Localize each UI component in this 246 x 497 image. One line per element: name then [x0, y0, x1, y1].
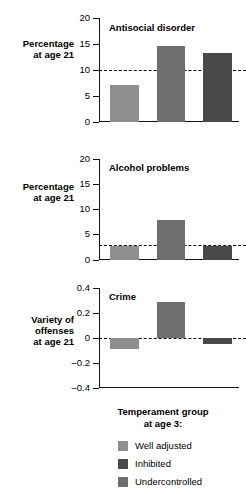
tick-label: 10 [79, 203, 90, 215]
tick-label: 5 [85, 90, 90, 102]
tick-label: 20 [79, 12, 90, 24]
bar [157, 220, 186, 260]
bar [110, 338, 139, 349]
panel-title: Crime [109, 291, 136, 302]
tick-label: 10 [79, 64, 90, 76]
plot-area: Alcohol problems 05101520 [99, 159, 239, 260]
tick-mark [93, 18, 99, 19]
legend-item-well-adjusted: Well adjusted [118, 437, 246, 455]
tick-mark [93, 96, 99, 97]
legend-item-label: Inhibited [135, 458, 171, 470]
bar [203, 338, 232, 344]
tick-label: 15 [79, 178, 90, 190]
tick-mark [93, 288, 99, 289]
tick-mark [93, 363, 99, 364]
bar [110, 246, 139, 260]
y-axis-label: Percentage at age 21 [2, 181, 74, 203]
tick-label: 0.2 [77, 307, 90, 319]
tick-mark [93, 234, 99, 235]
tick-mark [93, 388, 99, 389]
chart-figure: Percentage at age 21 Antisocial disorder… [0, 0, 246, 497]
tick-label: –0.4 [72, 382, 91, 394]
tick-label: 0 [85, 332, 90, 344]
legend-item-undercontrolled: Undercontrolled [118, 473, 246, 491]
bar [157, 46, 186, 122]
plot-area: Antisocial disorder 05101520 [99, 18, 239, 122]
x-axis-caption: Temperament group at age 3: [80, 406, 246, 430]
tick-mark [93, 260, 99, 261]
panel-title: Antisocial disorder [109, 22, 195, 33]
tick-label: 0 [85, 254, 90, 266]
tick-label: 20 [79, 153, 90, 165]
tick-label: –0.2 [72, 357, 91, 369]
bar [203, 53, 232, 122]
legend-swatch-icon [118, 441, 128, 451]
chart-legend: Well adjusted Inhibited Undercontrolled [118, 437, 246, 491]
tick-label: 0 [85, 116, 90, 128]
bar [157, 302, 186, 338]
legend-item-label: Undercontrolled [135, 476, 202, 488]
chart-panel-antisocial-disorder: Percentage at age 21 Antisocial disorder… [0, 0, 246, 145]
legend-item-label: Well adjusted [135, 440, 192, 452]
tick-mark [93, 159, 99, 160]
bar [203, 246, 232, 260]
tick-mark [93, 313, 99, 314]
tick-mark [93, 44, 99, 45]
legend-swatch-icon [118, 477, 128, 487]
tick-mark [93, 122, 99, 123]
tick-label: 15 [79, 38, 90, 50]
tick-mark [93, 209, 99, 210]
y-axis-label: Percentage at age 21 [2, 38, 74, 60]
panel-title: Alcohol problems [109, 162, 189, 173]
legend-item-inhibited: Inhibited [118, 455, 246, 473]
tick-mark [93, 184, 99, 185]
plot-area: Crime –0.4–0.200.20.4 [99, 288, 239, 388]
y-axis-label: Variety of offenses at age 21 [2, 314, 74, 347]
x-axis-line [99, 387, 239, 388]
tick-label: 5 [85, 228, 90, 240]
bar [110, 85, 139, 122]
legend-swatch-icon [118, 459, 128, 469]
tick-label: 0.4 [77, 282, 90, 294]
chart-panel-alcohol-problems: Percentage at age 21 Alcohol problems 05… [0, 145, 246, 278]
chart-panel-crime: Variety of offenses at age 21 Crime –0.4… [0, 278, 246, 406]
